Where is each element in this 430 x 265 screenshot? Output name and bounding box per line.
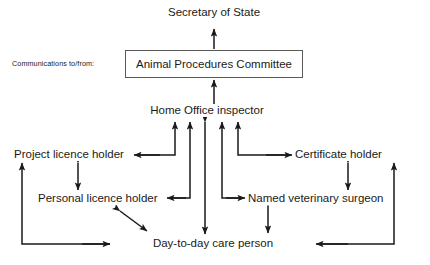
node-day-to-day-care-person: Day-to-day care person [151,237,275,250]
node-personal-licence-holder: Personal licence holder [36,192,160,205]
committee-box-label: Animal Procedures Committee [136,58,292,70]
node-named-veterinary-surgeon: Named veterinary surgeon [246,192,386,205]
communications-caption: Communications to/from: [12,59,94,68]
edge-certificate-to-inspector [238,122,290,155]
node-animal-procedures-committee: Animal Procedures Committee [125,50,303,78]
edge-personal-daytoday-twoway [120,211,147,231]
edge-project-to-inspector [136,122,175,155]
node-project-licence-holder: Project licence holder [12,148,126,161]
node-secretary-of-state: Secretary of State [166,6,262,19]
diagram-connectors [0,0,430,265]
node-certificate-holder: Certificate holder [293,148,384,161]
node-home-office-inspector: Home Office inspector [148,104,266,117]
edge-personal-to-inspector [170,122,190,198]
organisation-flow-diagram: Secretary of State Communications to/fro… [0,0,430,265]
edge-vet-to-inspector [222,122,243,198]
